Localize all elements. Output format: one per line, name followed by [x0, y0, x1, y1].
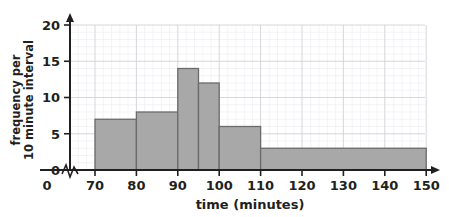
y-tick-label-20: 20: [42, 18, 60, 33]
x-axis-title: time (minutes): [196, 197, 305, 212]
bar-110-150: [261, 148, 427, 170]
x-tick-label-0: 0: [42, 178, 51, 193]
x-tick-label-140: 140: [371, 178, 398, 193]
histogram-figure: 0 5 10 15 20 0 70 80 90 100 110 120 130: [0, 0, 449, 217]
bar-95-100: [199, 83, 220, 170]
x-tick-label-130: 130: [330, 178, 357, 193]
x-tick-label-120: 120: [288, 178, 315, 193]
y-tick-label-5: 5: [51, 127, 60, 142]
y-axis-title-line2: 10 minute interval: [22, 40, 36, 160]
bar-70-80: [95, 119, 136, 170]
y-tick-label-15: 15: [42, 54, 60, 69]
y-axis-title: frequency per 10 minute interval: [9, 40, 36, 160]
bar-80-90: [136, 112, 177, 170]
x-tick-label-150: 150: [413, 178, 440, 193]
bar-100-110: [219, 127, 260, 171]
x-tick-label-110: 110: [247, 178, 274, 193]
y-tick-label-10: 10: [42, 90, 60, 105]
x-tick-label-100: 100: [206, 178, 233, 193]
x-tick-label-90: 90: [169, 178, 187, 193]
histogram-svg: 0 5 10 15 20 0 70 80 90 100 110 120 130: [0, 0, 449, 217]
y-tick-label-0: 0: [51, 163, 60, 178]
y-axis-title-line1: frequency per: [9, 54, 23, 145]
bar-90-95: [178, 69, 199, 171]
x-tick-label-80: 80: [127, 178, 145, 193]
x-tick-label-70: 70: [86, 178, 104, 193]
